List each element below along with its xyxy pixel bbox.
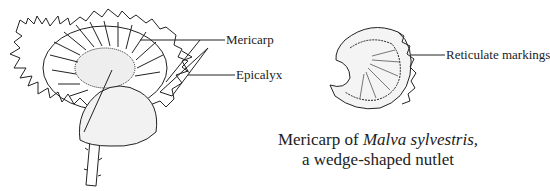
mericarp-closeup (330, 28, 416, 109)
caption-line-2: a wedge-shaped nutlet (258, 150, 498, 170)
figure-caption: Mericarp of Malva sylvestris, a wedge-sh… (258, 130, 498, 170)
stalk (84, 140, 102, 186)
label-reticulate-markings: Reticulate markings (446, 48, 550, 61)
label-epicalyx: Epicalyx (236, 68, 282, 81)
caption-line-1: Mericarp of Malva sylvestris, (258, 130, 498, 150)
species-name: Malva sylvestris, (363, 130, 478, 149)
label-mericarp: Mericarp (226, 33, 274, 46)
